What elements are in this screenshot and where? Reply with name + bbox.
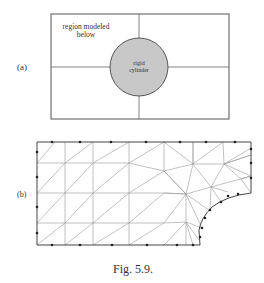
boundary-nodes <box>36 141 253 247</box>
panel-b-label: (b) <box>17 190 27 199</box>
panel-b: (b) <box>17 141 252 247</box>
cylinder-label-line2: cylinder <box>129 67 149 73</box>
panel-a-label: (a) <box>17 62 27 72</box>
finite-element-mesh <box>37 142 251 245</box>
panel-a: (a) region modeled below rigid cylinder <box>17 14 229 119</box>
mesh-boundary <box>37 142 251 245</box>
region-label-line2: below <box>77 30 96 39</box>
cylinder-label-line1: rigid <box>133 60 144 66</box>
figure-canvas: (a) region modeled below rigid cylinder … <box>0 0 264 283</box>
figure-caption: Fig. 5.9. <box>113 262 153 276</box>
